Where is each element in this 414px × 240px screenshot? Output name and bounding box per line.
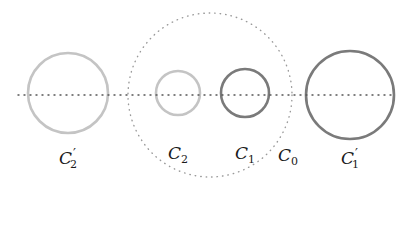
- circle-c2-prime: [28, 53, 108, 133]
- label-c2: C2: [168, 145, 188, 165]
- label-base: C: [168, 143, 181, 163]
- label-subscript: 1: [352, 158, 359, 171]
- label-base: C: [235, 143, 248, 163]
- label-subscript: 2: [70, 158, 77, 171]
- label-subscript: 1: [248, 153, 255, 166]
- label-c1-prime: C′1: [341, 147, 359, 170]
- label-base: C: [278, 145, 291, 165]
- label-c2-prime: C′2: [59, 147, 77, 170]
- label-c1: C1: [235, 145, 255, 165]
- label-c0: C0: [278, 147, 298, 167]
- label-subscript: 0: [291, 155, 298, 168]
- label-subscript: 2: [181, 153, 188, 166]
- circle-c1: [221, 69, 269, 117]
- circle-c2: [156, 71, 200, 115]
